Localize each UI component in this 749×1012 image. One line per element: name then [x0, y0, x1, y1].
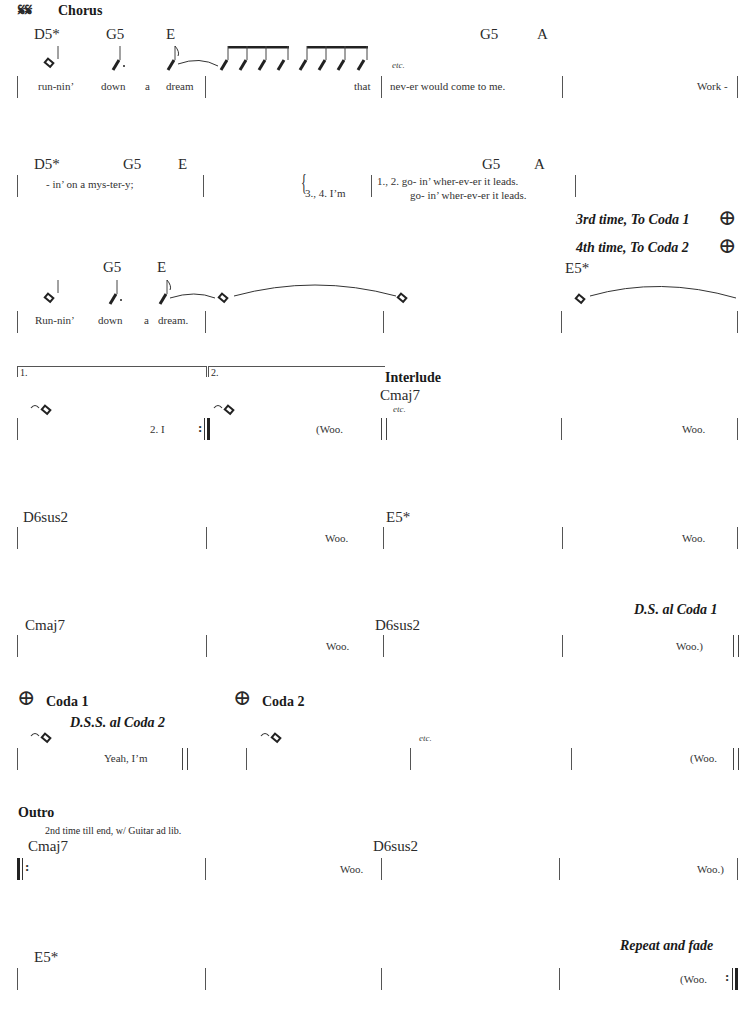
barline [381, 968, 382, 990]
verse-1-2-lyric: 1., 2. go- in’ wher-ev-er it leads. [377, 175, 518, 187]
barline [205, 311, 206, 333]
barline [17, 635, 18, 657]
repeat-start-sign: : [25, 860, 29, 873]
double-barline [733, 748, 739, 770]
coda-1-title: Coda 1 [46, 694, 88, 710]
barline [206, 635, 207, 657]
lyric: (Woo. [316, 423, 343, 435]
coda-2-title: Coda 2 [262, 694, 304, 710]
lyric: that [354, 80, 371, 92]
coda-icon: ⊕ [17, 687, 35, 709]
chord-g5: G5 [103, 259, 121, 276]
chord-d6sus2: D6sus2 [375, 617, 420, 634]
chord-e5: E5* [34, 949, 58, 966]
lyric: (Woo. [690, 752, 717, 764]
barline [17, 968, 18, 990]
coda-icon: ⊕ [718, 207, 736, 229]
lyric: - in’ on a mys-ter-y; [46, 178, 134, 190]
barline [737, 76, 738, 98]
repeat-and-fade-direction: Repeat and fade [620, 938, 713, 954]
lyric: Run-nin’ [35, 314, 75, 326]
chord-a: A [537, 26, 548, 43]
barline [559, 858, 560, 880]
etc-label: etc. [419, 733, 432, 743]
repeat-barline [204, 418, 210, 440]
double-barline [733, 635, 739, 657]
chord-d5: D5* [34, 26, 60, 43]
section-title-chorus: Chorus [58, 3, 102, 19]
barline [737, 527, 738, 549]
barline [371, 175, 372, 197]
barline [203, 175, 204, 197]
lyric: Woo. [326, 640, 349, 652]
rhythm-notation [28, 400, 288, 420]
chord-cmaj7: Cmaj7 [25, 617, 65, 634]
performance-note: 2nd time till end, w/ Guitar ad lib. [45, 825, 181, 836]
barline [205, 968, 206, 990]
lyric: dream [166, 80, 193, 92]
barline [737, 311, 738, 333]
barline [246, 748, 247, 770]
lyric: Woo. [340, 863, 363, 875]
lyric: (Woo. [680, 973, 707, 985]
double-barline [182, 748, 188, 770]
lyric: Yeah, I’m [104, 752, 148, 764]
lyric: run-nin’ [38, 80, 74, 92]
lyric: nev-er would come to me. [390, 80, 505, 92]
barline [205, 76, 206, 98]
lyric: Woo. [325, 532, 348, 544]
second-ending-bracket: 2. [208, 366, 385, 377]
barline [561, 311, 562, 333]
chord-e5: E5* [386, 509, 410, 526]
lyric: 2. I [150, 423, 165, 435]
lyric: a [145, 80, 150, 92]
lyric: a [144, 314, 149, 326]
first-ending-bracket: 1. [17, 366, 207, 377]
to-coda-2-direction: 4th time, To Coda 2 [576, 240, 689, 256]
barline [17, 311, 18, 333]
chord-d5: D5* [34, 156, 60, 173]
barline [17, 748, 18, 770]
ds-al-coda-1-direction: D.S. al Coda 1 [634, 602, 718, 618]
barline [383, 311, 384, 333]
chord-d6sus2: D6sus2 [373, 838, 418, 855]
chord-a: A [534, 156, 545, 173]
etc-label: etc. [393, 404, 406, 414]
rhythm-notation [28, 728, 328, 748]
verse-3-4-lyric-cont: go- in’ wher-ev-er it leads. [410, 189, 527, 201]
chord-g5: G5 [106, 26, 124, 43]
barline [559, 968, 560, 990]
chord-d6sus2: D6sus2 [23, 509, 68, 526]
barline [206, 527, 207, 549]
repeat-barline [732, 968, 738, 990]
lyric: dream. [158, 314, 188, 326]
barline [561, 418, 562, 440]
lyric: down [101, 80, 125, 92]
rhythm-notation [0, 276, 720, 316]
barline [17, 76, 18, 98]
barline [410, 748, 411, 770]
repeat-end-sign: : [198, 421, 202, 434]
lyric: down [98, 314, 122, 326]
chord-e5: E5* [565, 260, 589, 277]
lyric: Work - [697, 80, 728, 92]
barline [381, 858, 382, 880]
chord-g5: G5 [482, 156, 500, 173]
verse-3-4-lyric: 3., 4. I’m [305, 187, 346, 199]
lyric: Woo.) [697, 863, 724, 875]
chord-e: E [178, 156, 187, 173]
chord-e: E [157, 259, 166, 276]
chord-g5: G5 [123, 156, 141, 173]
to-coda-1-direction: 3rd time, To Coda 1 [576, 212, 689, 228]
barline [381, 76, 382, 98]
chord-g5: G5 [480, 26, 498, 43]
chord-cmaj7: Cmaj7 [380, 387, 420, 404]
etc-label: etc. [392, 60, 405, 70]
coda-icon: ⊕ [233, 687, 251, 709]
double-barline [381, 418, 387, 440]
chord-cmaj7: Cmaj7 [28, 838, 68, 855]
barline [205, 858, 206, 880]
lyric: Woo. [682, 423, 705, 435]
barline [562, 76, 563, 98]
barline [737, 418, 738, 440]
